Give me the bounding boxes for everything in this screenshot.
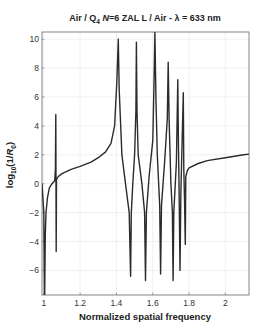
y-tick-label: −6 (29, 265, 39, 275)
x-tick-label: 1.8 (183, 298, 195, 308)
y-tick-label: 4 (34, 121, 39, 131)
y-tick-label: 10 (30, 34, 40, 44)
y-tick-label: 2 (34, 150, 39, 160)
y-tick-label: −4 (29, 237, 39, 247)
y-tick-label: 8 (34, 63, 39, 73)
y-tick-label: 6 (34, 92, 39, 102)
x-tick-label: 2 (223, 298, 228, 308)
y-axis-label: log10(1/R0) (4, 142, 17, 188)
x-tick-label: 1.4 (111, 298, 123, 308)
x-tick-label: 1.6 (147, 298, 159, 308)
y-tick-label: −2 (29, 208, 39, 218)
y-tick-label: 0 (34, 179, 39, 189)
x-tick-label: 1 (41, 298, 46, 308)
chart-title: Air / Q4 N=6 ZAL L / Air - λ = 633 nm (69, 13, 221, 25)
chart: Air / Q4 N=6 ZAL L / Air - λ = 633 nm 11… (0, 0, 263, 335)
data-line (42, 32, 249, 295)
x-tick-label: 1.2 (74, 298, 86, 308)
x-axis-label: Normalized spatial frequency (79, 311, 212, 322)
